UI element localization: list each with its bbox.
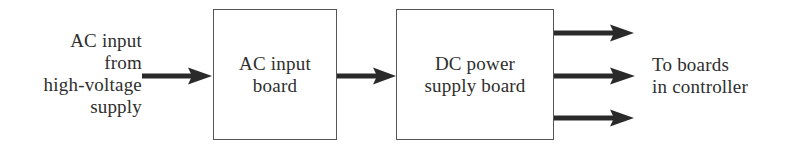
input-arrow-icon	[142, 68, 212, 85]
block-label-line: DC power	[424, 53, 525, 75]
output-destination-label: To boards in controller	[652, 54, 748, 98]
block-label-line: board	[239, 75, 311, 97]
ac-to-dc-arrow-icon	[337, 68, 396, 85]
output-label-line: To boards	[652, 54, 748, 76]
output-arrow-top-icon	[554, 25, 634, 42]
block-label-line: AC input	[239, 53, 311, 75]
output-arrow-middle-icon	[554, 68, 635, 85]
output-arrow-bottom-icon	[554, 110, 634, 127]
block-label-line: supply board	[424, 75, 525, 97]
input-label-line: AC input	[44, 30, 142, 52]
power-supply-block-diagram: AC input from high-voltage supply AC inp…	[0, 0, 795, 152]
input-label-line: supply	[44, 96, 142, 118]
ac-input-board-block: AC input board	[213, 9, 337, 140]
ac-input-board-label: AC input board	[239, 53, 311, 97]
dc-power-supply-board-block: DC power supply board	[396, 9, 554, 140]
output-label-line: in controller	[652, 76, 748, 98]
input-source-label: AC input from high-voltage supply	[44, 30, 142, 118]
input-label-line: from	[44, 52, 142, 74]
dc-power-supply-board-label: DC power supply board	[424, 53, 525, 97]
input-label-line: high-voltage	[44, 74, 142, 96]
